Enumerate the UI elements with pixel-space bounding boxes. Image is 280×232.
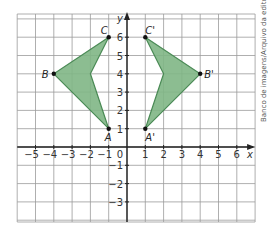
y-tick-label: 2 (117, 105, 123, 116)
vertex-point (143, 127, 147, 131)
y-tick-label: −2 (108, 179, 123, 190)
origin-label: 0 (117, 149, 123, 160)
vertex-label: C' (145, 25, 155, 36)
x-tick-label: 1 (142, 149, 148, 160)
x-tick-label: −2 (79, 149, 94, 160)
vertex-point (52, 72, 56, 76)
y-axis-arrow-icon (124, 12, 130, 20)
x-tick-label: −4 (42, 149, 57, 160)
y-tick-label: −1 (108, 160, 123, 171)
vertex-point (198, 72, 202, 76)
x-tick-label: −3 (61, 149, 76, 160)
y-tick-label: 1 (117, 124, 123, 135)
credit-text: Banco de imagens/Arquivo da editora (260, 0, 268, 122)
x-tick-label: 6 (234, 149, 240, 160)
coordinate-plane: −5−4−3−2−1123456654321−1−2−30xyABCA'B'C' (0, 0, 280, 232)
x-tick-label: 5 (215, 149, 221, 160)
y-tick-label: 5 (117, 51, 123, 62)
x-tick-label: 2 (160, 149, 166, 160)
vertex-label: A' (144, 132, 155, 143)
x-tick-label: −1 (97, 149, 112, 160)
x-tick-label: −5 (24, 149, 39, 160)
y-tick-label: 3 (117, 87, 123, 98)
vertex-label: A (104, 132, 112, 143)
y-tick-label: −3 (108, 197, 123, 208)
polygon-abc-prime (145, 37, 200, 129)
vertex-label: C (101, 25, 108, 36)
x-tick-label: 3 (179, 149, 185, 160)
polygon-abc (54, 37, 109, 129)
vertex-label: B' (204, 69, 214, 80)
x-tick-label: 4 (197, 149, 203, 160)
x-axis-label: x (246, 149, 253, 160)
vertex-label: B (42, 69, 49, 80)
y-tick-label: 6 (117, 32, 123, 43)
vertex-point (107, 127, 111, 131)
y-axis-label: y (116, 13, 124, 24)
image-credit: Banco de imagens/Arquivo da editora (258, 4, 272, 122)
y-tick-label: 4 (117, 69, 123, 80)
